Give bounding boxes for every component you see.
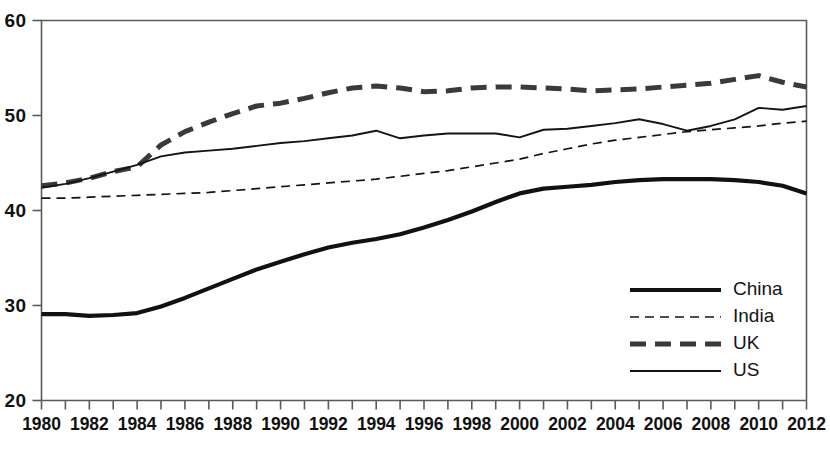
x-axis-tick-label: 2000 bbox=[493, 414, 547, 435]
x-axis-tick-label: 2006 bbox=[636, 414, 690, 435]
x-axis-tick-label: 1982 bbox=[62, 414, 116, 435]
legend-label-india: India bbox=[733, 305, 774, 327]
x-axis-tick-label: 1988 bbox=[206, 414, 260, 435]
x-axis-tick-label: 1984 bbox=[110, 414, 164, 435]
x-axis-tick-label: 2004 bbox=[588, 414, 642, 435]
x-axis-tick-label: 1998 bbox=[445, 414, 499, 435]
x-axis-tick-label: 1986 bbox=[158, 414, 212, 435]
x-axis-tick-label: 1996 bbox=[397, 414, 451, 435]
x-axis-tick-label: 2002 bbox=[540, 414, 594, 435]
x-axis-tick-label: 1990 bbox=[254, 414, 308, 435]
x-axis-tick-label: 2010 bbox=[732, 414, 786, 435]
y-axis-tick-label: 40 bbox=[0, 200, 27, 222]
x-axis-tick-label: 1992 bbox=[301, 414, 355, 435]
y-axis-tick-label: 60 bbox=[0, 10, 27, 32]
x-axis-tick-label: 2008 bbox=[684, 414, 738, 435]
legend-label-china: China bbox=[733, 278, 783, 300]
x-axis-tick-label: 1980 bbox=[15, 414, 69, 435]
y-axis-tick-label: 50 bbox=[0, 105, 27, 127]
x-axis-tick-label: 2012 bbox=[780, 414, 830, 435]
legend-label-us: US bbox=[733, 359, 759, 381]
legend-label-uk: UK bbox=[733, 332, 759, 354]
y-axis-tick-label: 20 bbox=[0, 390, 27, 412]
y-axis-tick-label: 30 bbox=[0, 295, 27, 317]
x-axis-tick-label: 1994 bbox=[349, 414, 403, 435]
